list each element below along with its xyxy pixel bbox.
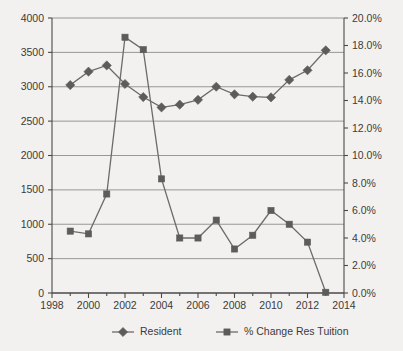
y2-tick-label-6: 6.0%: [352, 204, 376, 216]
x-axis-tick-labels: 199820002002200420062008201020122014: [40, 299, 356, 311]
x-tick-label-1998: 1998: [40, 299, 64, 311]
y-tick-label-1000: 1000: [21, 218, 45, 230]
data-point-2-2013: [323, 289, 329, 295]
y2-tick-label-14: 14.0%: [352, 94, 382, 106]
y-tick-label-3500: 3500: [21, 46, 45, 58]
x-tick-label-2004: 2004: [150, 299, 174, 311]
y2-tick-label-0: 0.0%: [352, 287, 376, 299]
x-tick-label-2014: 2014: [332, 299, 356, 311]
y2-tick-label-12: 12.0%: [352, 122, 382, 134]
y-tick-label-3000: 3000: [21, 80, 45, 92]
y2-tick-label-8: 8.0%: [352, 177, 376, 189]
data-point-2-2005: [177, 235, 183, 241]
y2-tick-label-18: 18.0%: [352, 39, 382, 51]
x-tick-label-2008: 2008: [223, 299, 247, 311]
data-point-2-2000: [85, 231, 91, 237]
legend-label-2: % Change Res Tuition: [244, 325, 349, 337]
y-tick-label-2500: 2500: [21, 115, 45, 127]
y2-tick-label-20: 20.0%: [352, 12, 382, 24]
data-point-2-2012: [304, 239, 310, 245]
data-point-2-2010: [268, 207, 274, 213]
y2-tick-label-16: 16.0%: [352, 67, 382, 79]
y2-tick-label-4: 4.0%: [352, 232, 376, 244]
y-tick-label-0: 0: [38, 287, 44, 299]
data-point-2-2002: [122, 34, 128, 40]
data-point-2-2009: [250, 232, 256, 238]
x-tick-label-2000: 2000: [77, 299, 101, 311]
legend-marker-square: [224, 329, 230, 335]
x-tick-label-2006: 2006: [186, 299, 210, 311]
y-tick-label-2000: 2000: [21, 149, 45, 161]
y2-tick-label-2: 2.0%: [352, 259, 376, 271]
x-tick-label-2012: 2012: [296, 299, 320, 311]
legend-label-1: Resident: [140, 325, 182, 337]
data-point-2-2003: [140, 47, 146, 53]
data-point-2-2001: [104, 191, 110, 197]
line-chart: 05001000150020002500300035004000 0.0%2.0…: [0, 0, 403, 351]
y-tick-label-4000: 4000: [21, 12, 45, 24]
data-point-2-2006: [195, 235, 201, 241]
data-point-2-2011: [286, 221, 292, 227]
data-point-2-2004: [158, 176, 164, 182]
x-tick-label-2002: 2002: [113, 299, 137, 311]
data-point-2-2007: [213, 217, 219, 223]
data-point-2-1999: [67, 228, 73, 234]
chart-container: 05001000150020002500300035004000 0.0%2.0…: [0, 0, 403, 351]
data-point-2-2008: [231, 246, 237, 252]
y2-tick-label-10: 10.0%: [352, 149, 382, 161]
x-tick-label-2010: 2010: [259, 299, 283, 311]
y-tick-label-1500: 1500: [21, 183, 45, 195]
y-tick-label-500: 500: [26, 252, 44, 264]
